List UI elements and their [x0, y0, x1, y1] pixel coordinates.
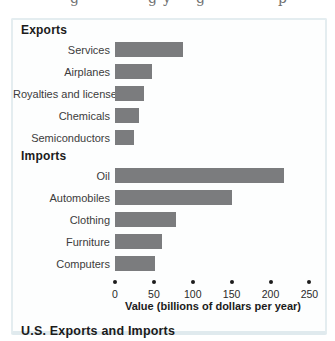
axis-dot-track: [115, 277, 325, 287]
cropped-letter: g: [70, 0, 79, 6]
bar-label: Semiconductors: [13, 132, 115, 144]
bar-track: [115, 165, 325, 187]
bar-row: Clothing: [13, 209, 325, 231]
bar-row: Royalties and licenses: [13, 83, 325, 105]
figure-panel: ExportsServicesAirplanesRoyalties and li…: [11, 18, 327, 335]
axis-tick-label: 250: [301, 288, 319, 300]
bar: [115, 168, 284, 183]
axis-tick-dot: [307, 280, 311, 284]
axis-tick-dot: [269, 280, 273, 284]
bar-label: Furniture: [13, 236, 115, 248]
group-heading-imports: Imports: [21, 150, 325, 163]
axis-tick-dot: [152, 280, 156, 284]
bar-row: Chemicals: [13, 105, 325, 127]
bar: [115, 42, 183, 57]
x-axis-label-row: Value (billions of dollars per year): [13, 300, 325, 313]
x-axis-dots: [13, 277, 325, 287]
axis-tick-label: 50: [148, 288, 160, 300]
axis-number-track: 050100150200250: [115, 288, 325, 298]
bar-row: Semiconductors: [13, 127, 325, 149]
axis-tick-label: 100: [184, 288, 202, 300]
bar-label: Oil: [13, 170, 115, 182]
bar-label: Services: [13, 44, 115, 56]
bar: [115, 234, 162, 249]
bar-row: Computers: [13, 253, 325, 275]
axis-tick-label: 200: [262, 288, 280, 300]
bar-row: Furniture: [13, 231, 325, 253]
bar-label: Chemicals: [13, 110, 115, 122]
bar-row: Oil: [13, 165, 325, 187]
bar-track: [115, 83, 325, 105]
bar-row: Services: [13, 39, 325, 61]
bar-label: Royalties and licenses: [13, 88, 115, 100]
cropped-letter: g: [148, 0, 157, 6]
bar: [115, 64, 152, 79]
bar-track: [115, 231, 325, 253]
bar-track: [115, 39, 325, 61]
bar-track: [115, 61, 325, 83]
bar-label: Automobiles: [13, 192, 115, 204]
axis-tick-dot: [191, 280, 195, 284]
cropped-body-text-line: ggygp: [0, 0, 335, 7]
bar-track: [115, 209, 325, 231]
bar-label: Airplanes: [13, 66, 115, 78]
axis-tick-label: 150: [223, 288, 241, 300]
bar: [115, 212, 176, 227]
bar-label: Computers: [13, 258, 115, 270]
axis-tick-label: 0: [112, 288, 118, 300]
chart-area: ExportsServicesAirplanesRoyalties and li…: [13, 20, 325, 331]
bar-track: [115, 187, 325, 209]
bar: [115, 190, 232, 205]
bar-track: [115, 127, 325, 149]
bar: [115, 86, 144, 101]
axis-tick-dot: [230, 280, 234, 284]
axis-spacer: [13, 288, 115, 299]
x-axis-label: Value (billions of dollars per year): [115, 300, 311, 312]
cropped-letter: y: [163, 0, 171, 6]
axis-spacer: [13, 277, 115, 287]
bar-row: Automobiles: [13, 187, 325, 209]
chart-rows: ExportsServicesAirplanesRoyalties and li…: [13, 24, 325, 275]
axis-tick-dot: [113, 280, 117, 284]
axis-label-track: Value (billions of dollars per year): [115, 300, 325, 310]
group-heading-exports: Exports: [21, 24, 325, 37]
cropped-letter: p: [278, 0, 287, 6]
bar: [115, 130, 134, 145]
bar-row: Airplanes: [13, 61, 325, 83]
figure-title: U.S. Exports and Imports: [21, 324, 325, 338]
axis-spacer: [13, 300, 115, 313]
bar: [115, 256, 155, 271]
bar-label: Clothing: [13, 214, 115, 226]
cropped-letter: g: [196, 0, 205, 6]
x-axis-numbers: 050100150200250: [13, 288, 325, 299]
bar-track: [115, 253, 325, 275]
bar-track: [115, 105, 325, 127]
bar: [115, 108, 139, 123]
